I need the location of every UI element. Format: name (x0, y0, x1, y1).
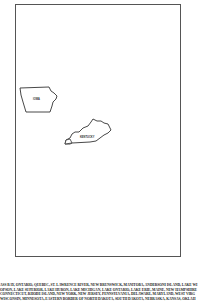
state-kentucky: KENTUCKY (65, 119, 111, 144)
map-caption: ASS BAY, ONTARIO, QUEBEC, ST. LAWRENCE R… (0, 283, 221, 301)
state-label-iowa: IOWA (33, 97, 40, 101)
state-label-kentucky: KENTUCKY (80, 135, 95, 139)
map-canvas: IOWA KENTUCKY (0, 0, 221, 302)
state-iowa: IOWA (20, 87, 57, 112)
caption-line: WISCONSIN, MINNESOTA, EASTERN BORDER OF … (0, 297, 221, 302)
caption-line: ASS BAY, ONTARIO, QUEBEC, ST. LAWRENCE R… (0, 283, 221, 288)
